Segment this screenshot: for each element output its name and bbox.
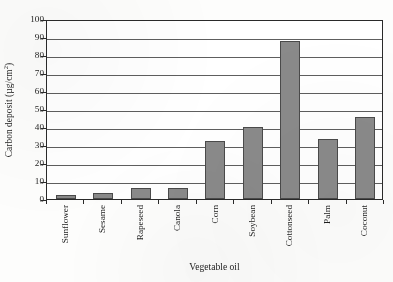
x-axis-tick-mark bbox=[383, 200, 384, 204]
x-axis-tick-mark bbox=[233, 200, 234, 204]
x-axis-title: Vegetable oil bbox=[46, 261, 383, 272]
bar-slot bbox=[347, 21, 384, 199]
x-axis-tick-mark bbox=[158, 200, 159, 204]
x-axis-tick-mark bbox=[46, 200, 47, 204]
y-axis-title-main: Carbon deposit (µg/cm bbox=[4, 69, 14, 157]
y-axis-title-exponent: 2 bbox=[2, 66, 9, 69]
plot-area bbox=[46, 20, 383, 200]
y-axis-title-tail: ) bbox=[4, 63, 14, 66]
x-axis-category-label: Sesame bbox=[97, 205, 108, 263]
bar-slot bbox=[234, 21, 271, 199]
x-axis-category-label: Canola bbox=[172, 205, 183, 263]
bar bbox=[168, 188, 188, 199]
bar-chart-figure: Carbon deposit (µg/cm2) 0102030405060708… bbox=[0, 0, 393, 282]
x-axis-tick-mark bbox=[196, 200, 197, 204]
bar bbox=[56, 195, 76, 199]
bar bbox=[280, 41, 300, 199]
bar-slot bbox=[197, 21, 234, 199]
bar-slot bbox=[84, 21, 121, 199]
bar bbox=[131, 188, 151, 199]
bar bbox=[205, 141, 225, 200]
bar bbox=[318, 139, 338, 199]
x-axis-category-label: Soybean bbox=[247, 205, 258, 263]
x-axis-category-label: Rapeseed bbox=[135, 205, 146, 263]
x-axis-category-label: Cottonseed bbox=[284, 205, 295, 263]
x-axis-category-label: Corn bbox=[210, 205, 221, 263]
x-axis-tick-mark bbox=[121, 200, 122, 204]
bar-slot bbox=[272, 21, 309, 199]
x-axis-category-label: Palm bbox=[322, 205, 333, 263]
bar-slot bbox=[122, 21, 159, 199]
bar bbox=[355, 117, 375, 199]
x-axis-tick-mark bbox=[308, 200, 309, 204]
bar-slot bbox=[159, 21, 196, 199]
x-axis-tick-mark bbox=[83, 200, 84, 204]
bar-slot bbox=[309, 21, 346, 199]
bar bbox=[93, 193, 113, 199]
bar-series bbox=[47, 21, 382, 199]
x-axis-tick-mark bbox=[346, 200, 347, 204]
y-axis-title: Carbon deposit (µg/cm2) bbox=[2, 20, 16, 200]
x-axis-category-label: Coconut bbox=[359, 205, 370, 263]
x-axis-category-label: Sunflower bbox=[60, 205, 71, 263]
x-axis-tick-mark bbox=[271, 200, 272, 204]
bar bbox=[243, 127, 263, 199]
bar-slot bbox=[47, 21, 84, 199]
